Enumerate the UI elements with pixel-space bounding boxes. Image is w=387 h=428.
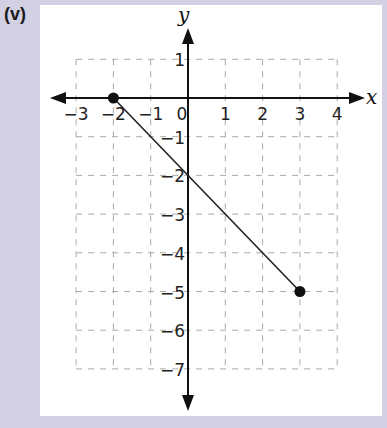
x-tick-label: 0 <box>177 104 188 124</box>
y-tick-label: −7 <box>160 360 185 380</box>
x-tick-label: −3 <box>64 104 89 124</box>
y-tick-label: −6 <box>160 321 185 341</box>
y-axis-arrow-up-icon <box>182 28 194 44</box>
x-axis-label: x <box>366 85 377 109</box>
x-axis-arrow-right-icon <box>349 92 365 104</box>
y-tick-label: −1 <box>160 128 185 148</box>
x-tick-label: 3 <box>294 104 305 124</box>
x-tick-label: 2 <box>257 104 268 124</box>
x-tick-label: 1 <box>220 104 231 124</box>
y-tick-label: −3 <box>160 205 185 225</box>
x-tick-label: 4 <box>332 104 343 124</box>
endpoint-dot <box>108 93 119 104</box>
y-axis-arrow-down-icon <box>182 395 194 411</box>
x-tick-label: −1 <box>138 104 163 124</box>
line-segment <box>113 98 300 292</box>
y-tick-label: −4 <box>160 244 185 264</box>
y-tick-label: −5 <box>160 283 185 303</box>
coordinate-graph: xy−3−2−1012341−1−2−3−4−5−6−7 <box>0 0 387 428</box>
y-axis-label: y <box>177 3 190 27</box>
y-tick-label: 1 <box>174 50 185 70</box>
x-axis-arrow-left-icon <box>50 92 66 104</box>
endpoint-dot <box>294 286 305 297</box>
